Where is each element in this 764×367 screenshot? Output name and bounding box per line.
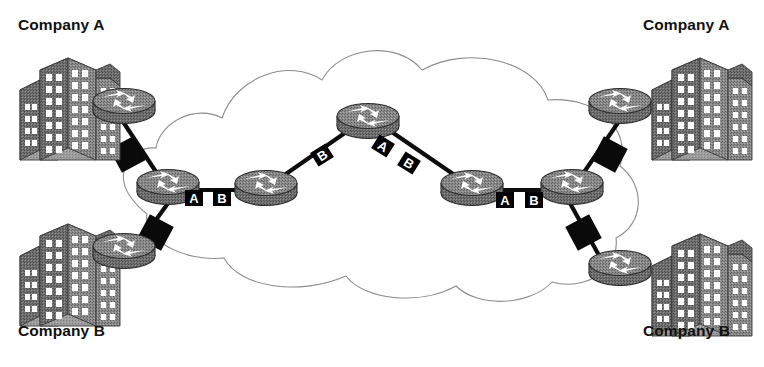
site-label-company-b-left: Company B xyxy=(18,322,105,340)
site-label-company-a-left: Company A xyxy=(18,16,104,34)
vpn-tag-label: B xyxy=(529,193,538,208)
router-p-right[interactable] xyxy=(441,171,503,206)
building-b-right xyxy=(652,234,752,336)
router-ce-a-left[interactable] xyxy=(93,89,155,124)
router-ce-b-left[interactable] xyxy=(93,234,155,269)
router-ce-b-right[interactable] xyxy=(589,251,651,286)
vpn-tag-label: A xyxy=(189,191,199,206)
router-pe-right[interactable] xyxy=(541,170,603,205)
vpn-tag-left-a: A xyxy=(185,190,203,206)
vpn-tag-right-a: A xyxy=(496,192,514,208)
diagram-canvas: A B B A B A xyxy=(0,0,764,367)
network-topology-svg: A B B A B A xyxy=(0,0,764,367)
vpn-tag-label: B xyxy=(217,191,226,206)
site-label-company-b-right: Company B xyxy=(643,322,730,340)
router-ce-a-right[interactable] xyxy=(589,89,651,124)
vpn-tag-right-b: B xyxy=(525,192,543,208)
vpn-tag-label: A xyxy=(500,193,510,208)
vpn-tag-left-b: B xyxy=(213,190,231,206)
building-a-right xyxy=(652,58,752,160)
router-p-left[interactable] xyxy=(235,171,297,206)
router-p-top[interactable] xyxy=(337,104,399,139)
site-label-company-a-right: Company A xyxy=(643,16,729,34)
